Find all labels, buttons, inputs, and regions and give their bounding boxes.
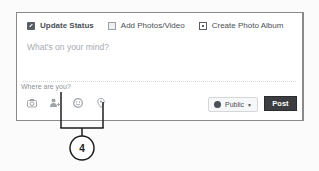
tab-label: Create Photo Album (212, 21, 284, 30)
audience-selector[interactable]: Public ▼ (208, 97, 258, 112)
tab-update-status[interactable]: Update Status (27, 21, 94, 30)
tab-add-photos-video[interactable]: Add Photos/Video (108, 21, 185, 30)
globe-icon (214, 101, 221, 108)
tab-label: Update Status (40, 21, 94, 30)
camera-icon[interactable] (27, 98, 37, 108)
tab-create-photo-album[interactable]: Create Photo Album (199, 21, 284, 30)
composer-actions (27, 98, 119, 108)
post-button[interactable]: Post (264, 96, 297, 111)
location-pin-icon[interactable] (96, 98, 106, 108)
feeling-icon[interactable] (73, 98, 83, 108)
status-composer: Update Status Add Photos/Video Create Ph… (16, 12, 304, 121)
pencil-icon (27, 22, 35, 30)
photo-icon (108, 22, 116, 30)
tag-friends-icon[interactable] (50, 98, 60, 108)
location-input[interactable]: Where are you? (21, 83, 71, 90)
composer-tabs: Update Status Add Photos/Video Create Ph… (27, 21, 297, 30)
album-icon (199, 22, 207, 30)
divider (23, 81, 296, 82)
tab-label: Add Photos/Video (121, 21, 185, 30)
callout-number: 4 (70, 136, 94, 160)
status-input[interactable]: What's on your mind? (27, 42, 109, 52)
audience-label: Public (225, 101, 244, 108)
chevron-down-icon: ▼ (247, 102, 252, 108)
